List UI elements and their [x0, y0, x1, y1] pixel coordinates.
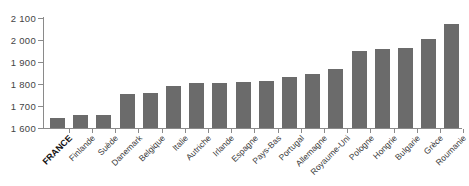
- bar: [212, 83, 227, 128]
- x-axis-tick-label: Finlande: [67, 133, 97, 163]
- x-axis-tick-label: Irlande: [211, 133, 236, 158]
- x-axis-tick: [231, 129, 232, 133]
- x-axis-tick-label: Italie: [170, 133, 190, 153]
- x-axis-tick-label: Pologne: [347, 133, 376, 162]
- x-axis-tick-label: Portugal: [277, 133, 306, 162]
- y-axis-tick-label: 1 900: [0, 57, 36, 68]
- x-axis-tick: [278, 129, 279, 133]
- x-axis-tick-label: Allemagne: [294, 133, 329, 168]
- bar: [328, 69, 343, 128]
- x-axis-tick-label: Belgique: [136, 133, 166, 163]
- bar: [96, 115, 111, 128]
- y-axis-tick: [38, 40, 44, 41]
- y-axis-tick-label: 2 000: [0, 35, 36, 46]
- x-axis-tick-label: Suède: [96, 133, 120, 157]
- bar: [352, 51, 367, 128]
- y-axis-tick-label: 1 800: [0, 79, 36, 90]
- x-axis-tick-label: Pays-Bas: [250, 133, 283, 166]
- x-axis-tick-label: Royaume-Uni: [309, 133, 353, 177]
- y-axis-tick-label: 1 700: [0, 101, 36, 112]
- x-axis-tick: [115, 129, 116, 133]
- bar: [143, 93, 158, 128]
- x-axis-tick: [347, 129, 348, 133]
- x-axis-tick: [138, 129, 139, 133]
- y-axis-tick-labels: 1 6001 7001 8001 9002 0002 100: [0, 0, 36, 186]
- bar: [189, 83, 204, 128]
- y-axis-tick: [38, 62, 44, 63]
- x-axis-tick: [463, 129, 464, 133]
- bar: [236, 82, 251, 128]
- bar: [166, 86, 181, 128]
- y-axis-tick-label: 1 600: [0, 123, 36, 134]
- bar: [120, 94, 135, 128]
- x-axis-tick-label: Danemark: [109, 133, 144, 168]
- x-axis-tick-label: Grèce: [422, 133, 445, 156]
- x-axis-tick: [394, 129, 395, 133]
- x-axis-tick-label: Hongrie: [371, 133, 399, 161]
- y-axis-tick: [38, 18, 44, 19]
- x-axis-tick: [440, 129, 441, 133]
- bar: [73, 115, 88, 128]
- y-axis-tick-label: 2 100: [0, 13, 36, 24]
- bar: [421, 39, 436, 128]
- x-axis-line: [43, 128, 462, 129]
- x-axis-tick: [324, 129, 325, 133]
- y-axis-tick: [38, 128, 44, 129]
- x-axis-tick: [370, 129, 371, 133]
- y-axis-tick: [38, 106, 44, 107]
- y-axis-tick: [38, 84, 44, 85]
- plot-area: [44, 18, 462, 128]
- x-axis-tick: [185, 129, 186, 133]
- x-axis-tick-label: Espagne: [229, 133, 260, 164]
- x-axis-tick-label: FRANCE: [40, 133, 74, 167]
- bar: [282, 77, 297, 128]
- x-axis-tick: [301, 129, 302, 133]
- bar: [50, 118, 65, 128]
- x-axis-tick: [92, 129, 93, 133]
- bar: [398, 48, 413, 128]
- x-axis-tick: [69, 129, 70, 133]
- x-axis-tick-label: Bulgarie: [393, 133, 422, 162]
- bar-chart: 1 6001 7001 8001 9002 0002 100 FRANCEFin…: [0, 0, 469, 186]
- bar: [444, 24, 459, 129]
- x-axis-tick: [208, 129, 209, 133]
- bar: [375, 49, 390, 128]
- bar: [305, 74, 320, 128]
- x-axis-tick-label: Roumanie: [434, 133, 468, 167]
- bar: [259, 81, 274, 128]
- x-axis-tick: [254, 129, 255, 133]
- x-axis-tick-label: Autriche: [184, 133, 213, 162]
- x-axis-tick: [417, 129, 418, 133]
- x-axis-tick: [162, 129, 163, 133]
